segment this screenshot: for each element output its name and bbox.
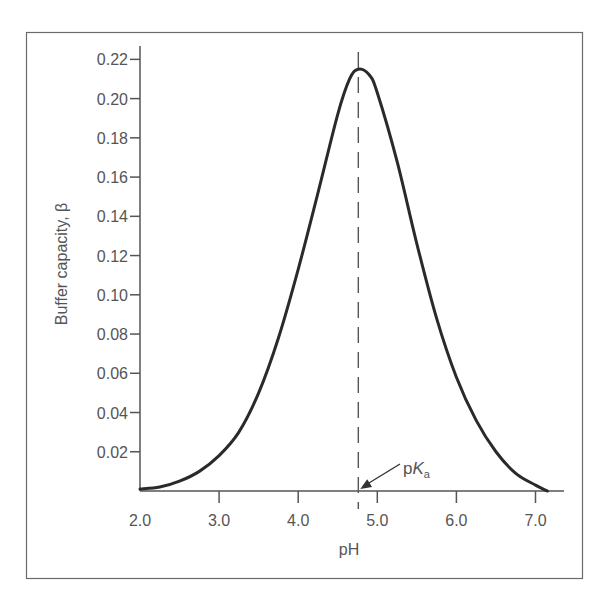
- buffer-capacity-chart: 0.020.040.060.080.100.120.140.160.180.20…: [0, 0, 606, 600]
- y-tick-label: 0.02: [97, 444, 128, 461]
- pka-arrow: [367, 464, 400, 484]
- y-tick-label: 0.18: [97, 130, 128, 147]
- y-tick-label: 0.06: [97, 365, 128, 382]
- x-tick-label: 6.0: [445, 512, 467, 529]
- pka-label: pKa: [403, 459, 431, 480]
- y-tick-label: 0.04: [97, 405, 128, 422]
- y-tick-label: 0.22: [97, 51, 128, 68]
- x-tick-label: 7.0: [524, 512, 546, 529]
- x-tick-label: 4.0: [287, 512, 309, 529]
- buffer-capacity-curve: [140, 69, 547, 491]
- x-tick-label: 3.0: [208, 512, 230, 529]
- y-tick-label: 0.16: [97, 169, 128, 186]
- pka-arrowhead-icon: [360, 479, 372, 489]
- y-tick-label: 0.10: [97, 287, 128, 304]
- pka-annotation: pKa: [360, 459, 430, 489]
- y-tick-label: 0.20: [97, 91, 128, 108]
- x-tick-label: 5.0: [366, 512, 388, 529]
- x-axis-title: pH: [339, 541, 359, 558]
- y-tick-label: 0.08: [97, 326, 128, 343]
- y-tick-label: 0.12: [97, 248, 128, 265]
- x-tick-label: 2.0: [129, 512, 151, 529]
- y-axis: 0.020.040.060.080.100.120.140.160.180.20…: [97, 46, 140, 491]
- y-tick-label: 0.14: [97, 208, 128, 225]
- y-axis-title: Buffer capacity, β: [53, 203, 70, 325]
- figure-frame: [27, 33, 583, 579]
- x-axis: 2.03.04.05.06.07.0: [129, 491, 564, 529]
